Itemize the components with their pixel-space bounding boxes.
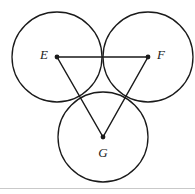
vertex-dot-e: [55, 55, 60, 60]
vertex-label-f: F: [156, 47, 166, 62]
figure-background: [0, 0, 195, 194]
vertex-dot-f: [146, 55, 151, 60]
vertex-label-e: E: [39, 47, 48, 62]
geometry-figure: E F G: [0, 0, 195, 194]
vertex-dot-g: [101, 135, 106, 140]
figure-canvas: E F G: [0, 0, 195, 194]
vertex-label-g: G: [98, 145, 108, 160]
